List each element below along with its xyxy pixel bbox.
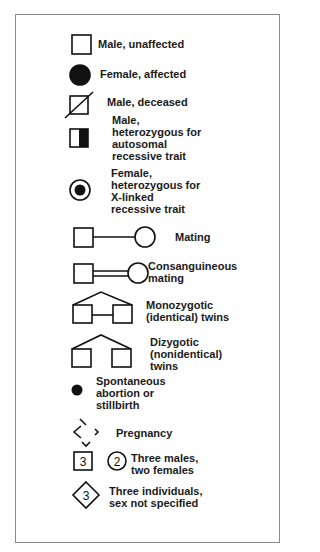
label-male-unaffected: Male, unaffected [98, 38, 184, 50]
mating-icon [74, 227, 155, 247]
label-consanguineous: Consanguineous mating [148, 260, 237, 284]
male-heterozygous-icon [70, 129, 88, 147]
female-carrier-icon [70, 180, 90, 200]
label-male-deceased: Male, deceased [107, 96, 188, 108]
label-female-carrier: Female, heterozygous for X-linked recess… [111, 167, 200, 215]
label-female-affected: Female, affected [100, 68, 186, 80]
monozygotic-twins-icon [73, 292, 132, 323]
label-dizygotic: Dizygotic (nonidentical) twins [150, 336, 222, 372]
label-three-individuals: Three individuals, sex not specified [109, 485, 203, 509]
pregnancy-icon [74, 419, 98, 446]
diamond-count: 3 [83, 489, 90, 503]
circle-count: 2 [114, 455, 121, 469]
consanguineous-mating-icon [74, 263, 148, 283]
label-pregnancy: Pregnancy [116, 427, 172, 439]
label-male-heterozygous: Male, heterozygous for autosomal recessi… [112, 114, 201, 162]
square-count: 3 [80, 455, 87, 469]
female-affected-icon [70, 65, 90, 85]
label-mating: Mating [175, 231, 210, 243]
label-spontaneous-abortion: Spontaneous abortion or stillbirth [96, 375, 166, 411]
male-unaffected-icon [72, 35, 91, 54]
male-deceased-icon [65, 92, 93, 118]
dizygotic-twins-icon [72, 335, 131, 367]
spontaneous-abortion-icon [72, 385, 83, 396]
label-monozygotic: Monozygotic (identical) twins [146, 299, 229, 323]
label-three-males: Three males, two females [131, 452, 198, 476]
